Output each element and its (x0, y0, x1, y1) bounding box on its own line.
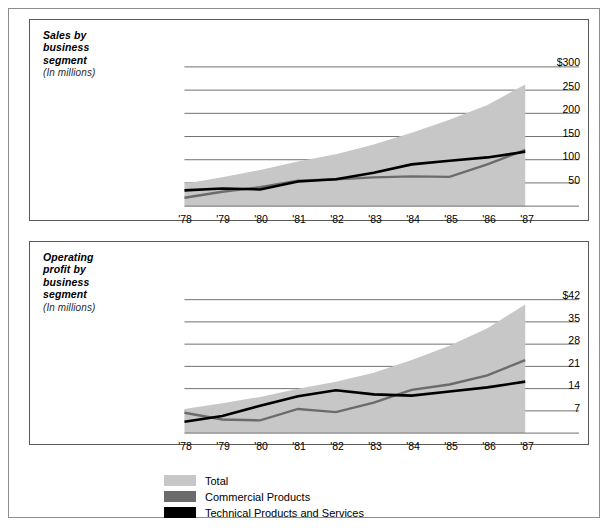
x-axis-tick-label: '86 (482, 213, 496, 225)
x-axis-tick-label: '83 (368, 213, 382, 225)
legend-item: Total (164, 473, 364, 488)
y-axis-tick-label: 35 (568, 312, 580, 324)
x-axis-tick-label: '84 (406, 213, 420, 225)
x-axis-tick-label: '83 (368, 440, 382, 452)
chart-panel-profit: Operating profit by business segment (In… (29, 241, 589, 445)
x-axis-tick-label: '86 (482, 440, 496, 452)
y-axis-tick-label: 150 (562, 127, 580, 139)
legend-swatch-icon (164, 507, 196, 518)
x-axis-tick-label: '85 (444, 213, 458, 225)
x-axis-tick-label: '80 (254, 213, 268, 225)
figure-frame: Sales by business segment (In millions) … (8, 8, 600, 518)
legend-label: Total (205, 475, 228, 487)
x-axis-tick-label: '79 (216, 213, 230, 225)
y-axis-tick-label: 14 (568, 379, 580, 391)
x-axis-tick-label: '78 (178, 213, 192, 225)
x-axis-tick-label: '81 (292, 440, 306, 452)
y-axis-tick-label: 28 (568, 334, 580, 346)
y-axis-tick-label: 250 (562, 80, 580, 92)
chart-legend: TotalCommercial ProductsTechnical Produc… (164, 473, 364, 521)
x-axis-tick-label: '87 (520, 440, 534, 452)
y-axis-labels-sales: $30025020015010050 (30, 20, 588, 220)
y-axis-tick-label: 50 (568, 174, 580, 186)
x-axis-tick-label: '84 (406, 440, 420, 452)
legend-label: Technical Products and Services (205, 507, 364, 519)
y-axis-labels-profit: $42352821147 (30, 242, 588, 444)
legend-swatch-icon (164, 475, 196, 486)
legend-item: Commercial Products (164, 489, 364, 504)
legend-label: Commercial Products (205, 491, 310, 503)
y-axis-tick-label: $42 (562, 289, 580, 301)
x-axis-tick-label: '80 (254, 440, 268, 452)
x-axis-tick-label: '85 (444, 440, 458, 452)
x-axis-tick-label: '82 (330, 440, 344, 452)
x-axis-tick-label: '87 (520, 213, 534, 225)
y-axis-tick-label: 21 (568, 357, 580, 369)
y-axis-tick-label: 100 (562, 150, 580, 162)
y-axis-tick-label: $300 (557, 56, 580, 68)
chart-panel-sales: Sales by business segment (In millions) … (29, 19, 589, 221)
y-axis-tick-label: 7 (574, 402, 580, 414)
y-axis-tick-label: 200 (562, 103, 580, 115)
legend-item: Technical Products and Services (164, 505, 364, 520)
x-axis-tick-label: '82 (330, 213, 344, 225)
legend-swatch-icon (164, 491, 196, 502)
x-axis-tick-label: '81 (292, 213, 306, 225)
x-axis-tick-label: '79 (216, 440, 230, 452)
x-axis-tick-label: '78 (178, 440, 192, 452)
